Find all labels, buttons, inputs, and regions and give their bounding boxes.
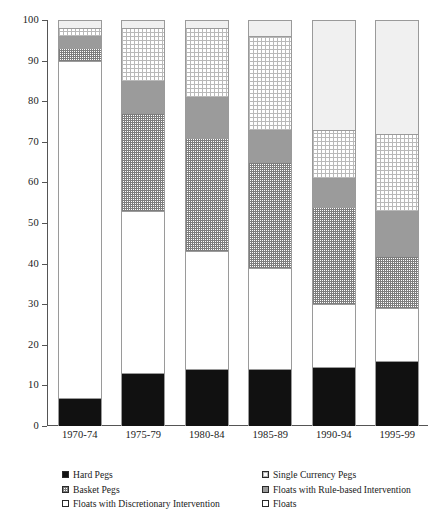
- legend-item-basket[interactable]: Basket Pegs: [62, 485, 262, 495]
- y-tick: [42, 385, 47, 386]
- y-tick-label: 10: [28, 380, 39, 391]
- legend-swatch-floatsdisc-icon: [62, 500, 69, 507]
- legend-swatch-floats-icon: [262, 500, 269, 507]
- legend-swatch-rule-icon: [262, 486, 269, 493]
- bar-segment-single: [248, 36, 292, 129]
- y-tick-label: 100: [23, 15, 39, 26]
- bar-1970-74: [58, 20, 102, 426]
- bar-1975-79: [121, 20, 165, 426]
- bar-segment-rule: [248, 130, 292, 162]
- bar-segment-hard: [375, 361, 419, 426]
- legend-item-floats[interactable]: Floats: [262, 499, 411, 509]
- bar-segment-single: [58, 28, 102, 36]
- bar-segment-floatsdisc: [121, 211, 165, 373]
- bar-segment-hard: [248, 369, 292, 426]
- bar-segment-hard: [185, 369, 229, 426]
- legend-label: Single Currency Pegs: [273, 470, 356, 480]
- chart-legend: Hard PegsSingle Currency PegsBasket Pegs…: [62, 470, 402, 509]
- bar-segment-floats: [121, 20, 165, 28]
- y-tick: [42, 142, 47, 143]
- bar-segment-single: [375, 134, 419, 211]
- legend-item-single[interactable]: Single Currency Pegs: [262, 470, 411, 480]
- bar-segment-floats: [58, 20, 102, 28]
- y-tick-label: 40: [28, 258, 39, 269]
- y-tick-label: 60: [28, 177, 39, 188]
- bar-segment-floats: [312, 20, 356, 130]
- bar-segment-floatsdisc: [58, 61, 102, 398]
- bar-segment-rule: [185, 97, 229, 138]
- x-label-1970-74: 1970-74: [62, 430, 98, 441]
- legend-swatch-hard-icon: [62, 471, 69, 478]
- y-tick: [42, 223, 47, 224]
- bar-segment-floatsdisc: [185, 251, 229, 369]
- y-tick-label: 70: [28, 137, 39, 148]
- bar-1990-94: [312, 20, 356, 426]
- x-label-1980-84: 1980-84: [189, 430, 225, 441]
- legend-item-floatsdisc[interactable]: Floats with Discretionary Intervention: [62, 499, 262, 509]
- bar-segment-rule: [375, 211, 419, 256]
- y-tick: [42, 304, 47, 305]
- y-tick-label: 50: [28, 218, 39, 229]
- y-tick: [42, 426, 47, 427]
- bar-1995-99: [375, 20, 419, 426]
- y-tick: [42, 20, 47, 21]
- x-label-1975-79: 1975-79: [125, 430, 161, 441]
- bar-segment-hard: [121, 373, 165, 426]
- legend-item-hard[interactable]: Hard Pegs: [62, 470, 262, 480]
- bar-segment-floats: [185, 20, 229, 28]
- bar-1980-84: [185, 20, 229, 426]
- bar-segment-floatsdisc: [248, 268, 292, 370]
- bar-segment-floatsdisc: [312, 304, 356, 367]
- x-axis-labels: 1970-741975-791980-841985-891990-941995-…: [47, 430, 428, 446]
- bar-segment-basket: [121, 113, 165, 210]
- bar-segment-floats: [375, 20, 419, 134]
- legend-swatch-single-icon: [262, 471, 269, 478]
- bar-1985-89: [248, 20, 292, 426]
- bar-segment-hard: [58, 398, 102, 426]
- y-tick: [42, 182, 47, 183]
- plot-area: 0102030405060708090100: [47, 20, 428, 426]
- bar-segment-basket: [58, 48, 102, 60]
- legend-label: Hard Pegs: [73, 470, 113, 480]
- y-tick-label: 80: [28, 96, 39, 107]
- bar-segment-basket: [375, 256, 419, 309]
- x-label-1990-94: 1990-94: [316, 430, 352, 441]
- bar-segment-rule: [312, 178, 356, 206]
- bar-segment-basket: [312, 207, 356, 304]
- bar-segment-floats: [248, 20, 292, 36]
- bar-segment-hard: [312, 367, 356, 426]
- bar-segment-single: [121, 28, 165, 81]
- y-tick: [42, 101, 47, 102]
- legend-label: Floats with Discretionary Intervention: [73, 499, 220, 509]
- legend-label: Floats with Rule-based Intervention: [273, 485, 411, 495]
- legend-item-rule[interactable]: Floats with Rule-based Intervention: [262, 485, 411, 495]
- y-tick: [42, 61, 47, 62]
- bar-segment-basket: [248, 162, 292, 268]
- x-label-1985-89: 1985-89: [252, 430, 288, 441]
- legend-swatch-basket-icon: [62, 486, 69, 493]
- legend-label: Basket Pegs: [73, 485, 120, 495]
- y-tick: [42, 345, 47, 346]
- bar-segment-rule: [58, 36, 102, 48]
- bar-group: [48, 20, 428, 426]
- x-label-1995-99: 1995-99: [379, 430, 415, 441]
- y-tick-label: 30: [28, 299, 39, 310]
- bar-segment-single: [312, 130, 356, 179]
- bar-segment-floatsdisc: [375, 308, 419, 361]
- bar-segment-single: [185, 28, 229, 97]
- y-tick-label: 0: [34, 421, 39, 432]
- bar-segment-basket: [185, 138, 229, 252]
- y-tick: [42, 264, 47, 265]
- y-tick-label: 20: [28, 340, 39, 351]
- bar-segment-rule: [121, 81, 165, 113]
- legend-label: Floats: [273, 499, 296, 509]
- y-tick-label: 90: [28, 55, 39, 66]
- chart-page: 0102030405060708090100 1970-741975-79198…: [0, 0, 447, 525]
